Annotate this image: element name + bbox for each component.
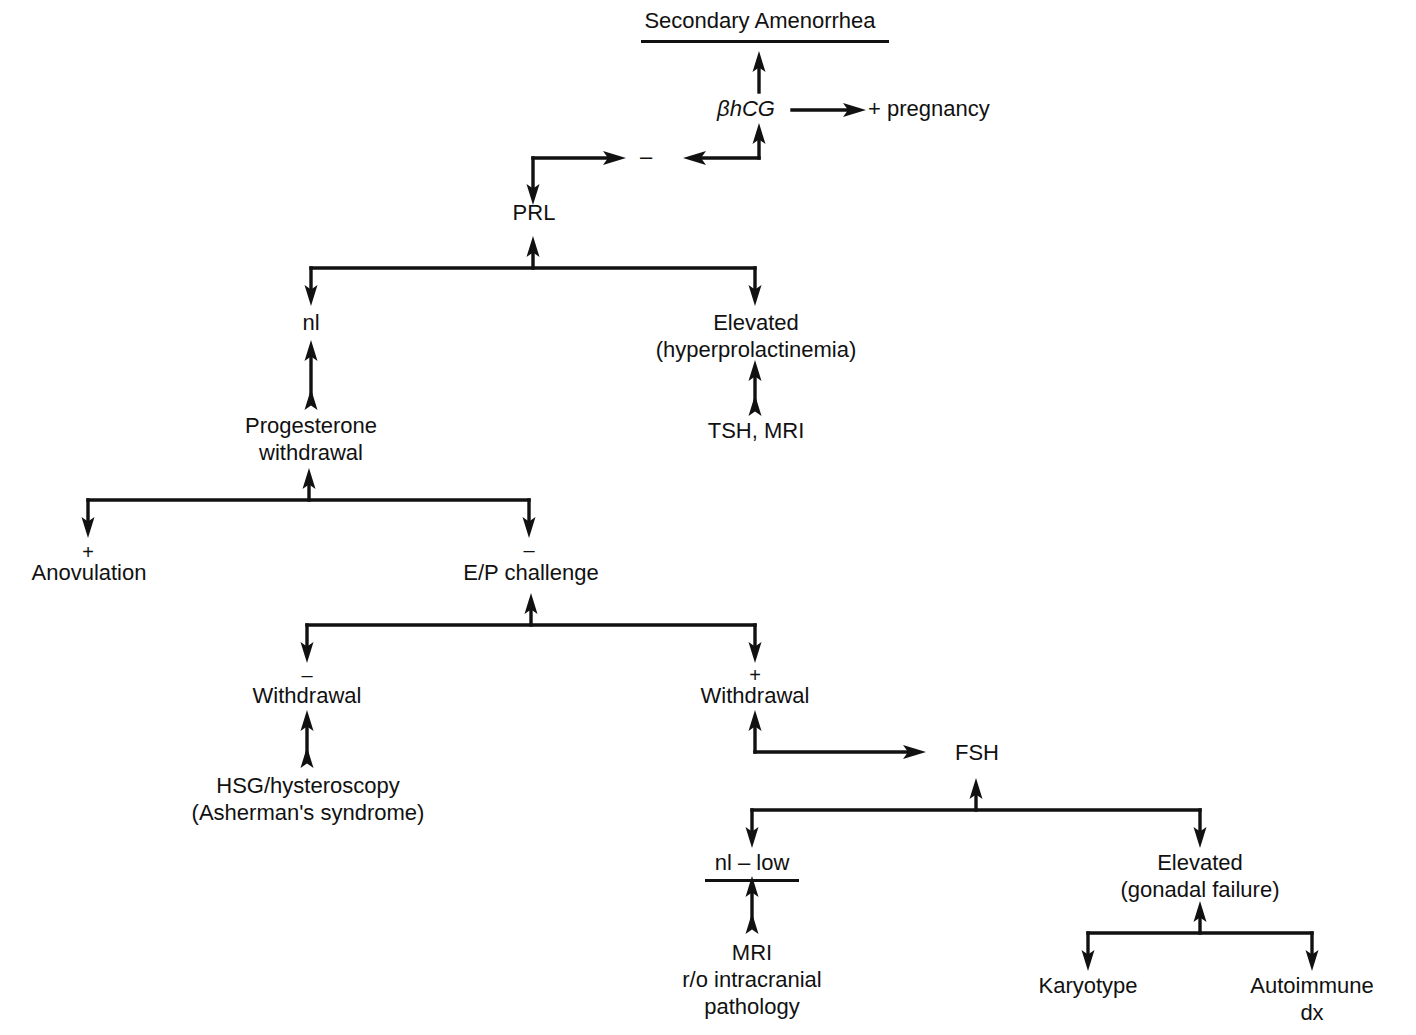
edge-elevated-tshmri	[749, 360, 762, 416]
node-autoimmune-dx: Autoimmune dx	[1226, 973, 1398, 1027]
node-anovulation: Anovulation	[8, 560, 170, 587]
node-fsh-elevated-gonadal-failure: Elevated (gonadal failure)	[1082, 850, 1318, 904]
edge-progesterone-split	[82, 500, 536, 538]
edge-gonadal-split-stem	[1194, 901, 1207, 933]
edge-nl-progesterone	[305, 340, 318, 410]
node-prl-elevated: Elevated (hyperprolactinemia)	[630, 310, 882, 364]
sign-withdrawal-positive-plus: +	[741, 665, 769, 685]
edge-prlsplit-to-prl	[527, 236, 540, 268]
node-fsh-nl-low-underline	[705, 879, 799, 882]
edge-feedback-to-bhcg	[683, 123, 766, 165]
node-fsh-nl-low: nl – low	[690, 850, 814, 877]
sign-negative-feedback: –	[632, 146, 660, 168]
node-karyotype: Karyotype	[1002, 973, 1174, 1000]
node-withdrawal-positive: Withdrawal	[680, 683, 830, 710]
edge-prl-to-feedback	[527, 151, 627, 205]
node-progesterone-withdrawal: Progesterone withdrawal	[203, 413, 419, 467]
node-ep-challenge: E/P challenge	[447, 560, 615, 587]
sign-withdrawal-negative-minus: –	[293, 665, 321, 685]
edge-ep-split-stem	[525, 593, 538, 625]
node-tsh-mri: TSH, MRI	[673, 418, 839, 445]
node-prl-normal: nl	[281, 310, 341, 337]
edge-ep-split	[301, 625, 762, 663]
node-bhcg: βhCG	[699, 96, 793, 123]
sign-anovulation-plus: +	[74, 542, 102, 562]
node-hsg-hysteroscopy: HSG/hysteroscopy (Asherman's syndrome)	[173, 773, 443, 827]
edge-nllow-mri	[746, 876, 759, 934]
sign-ep-challenge-minus: –	[515, 540, 543, 560]
flowchart-canvas: Secondary Amenorrhea βhCG + pregnancy – …	[0, 0, 1416, 1035]
edge-gonadal-split	[1082, 933, 1319, 971]
edge-fsh-split-stem	[970, 778, 983, 810]
edge-progesterone-split-stem	[303, 468, 316, 500]
edge-bhcg-to-title	[753, 51, 766, 92]
edge-withdrawalneg-hsg	[301, 710, 314, 768]
node-mri-intracranial: MRI r/o intracranial pathology	[635, 940, 869, 1020]
edge-withdrawalpos-to-fsh	[749, 710, 927, 759]
edge-fsh-split	[746, 810, 1207, 848]
page-title-underline	[641, 40, 889, 43]
node-withdrawal-negative: Withdrawal	[232, 683, 382, 710]
edge-bhcg-to-pregnancy	[792, 103, 866, 117]
edge-prl-split	[305, 268, 762, 306]
node-prl: PRL	[489, 200, 579, 227]
node-fsh: FSH	[936, 740, 1018, 767]
page-title: Secondary Amenorrhea	[595, 8, 925, 35]
node-positive-pregnancy: + pregnancy	[868, 96, 1048, 123]
